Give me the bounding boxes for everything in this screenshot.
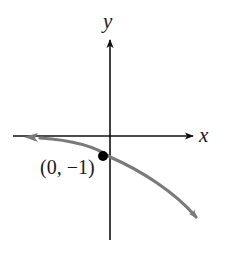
point-marker [98,151,108,161]
graph: y x (0, −1) [0,0,227,254]
curve-left-arrow-icon [24,133,38,142]
y-axis-label: y [101,9,113,33]
point-label: (0, −1) [40,156,95,179]
x-axis-label: x [198,123,209,147]
